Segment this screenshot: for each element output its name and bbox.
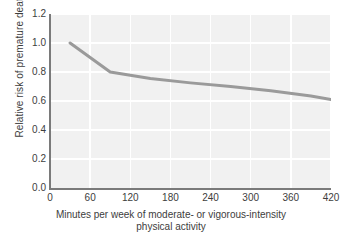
x-axis-tick-label: 0 xyxy=(30,192,70,203)
plot-area xyxy=(50,14,331,188)
y-axis-tick-label: 1.0 xyxy=(2,38,46,48)
x-axis-tick-label: 360 xyxy=(271,192,311,203)
y-axis-tick-label: 0.4 xyxy=(2,125,46,135)
x-axis-tick-label: 60 xyxy=(70,192,110,203)
x-axis-tick-labels: 060120180240300360420 xyxy=(0,192,341,206)
x-axis-tick-label: 300 xyxy=(231,192,271,203)
x-axis-line xyxy=(49,188,331,190)
data-line-series xyxy=(50,14,331,188)
x-axis-tick-label: 180 xyxy=(150,192,190,203)
x-axis-tick-label: 420 xyxy=(311,192,341,203)
x-axis-tick-label: 120 xyxy=(110,192,150,203)
y-axis-tick-label: 0.8 xyxy=(2,67,46,77)
chart-figure: Relative risk of premature death 0.00.20… xyxy=(0,0,341,240)
y-axis-tick-label: 1.2 xyxy=(2,9,46,19)
y-axis-line xyxy=(49,14,51,189)
x-axis-tick-label: 240 xyxy=(191,192,231,203)
x-axis-label-line1: Minutes per week of moderate- or vigorou… xyxy=(56,209,286,220)
x-axis-label: Minutes per week of moderate- or vigorou… xyxy=(12,209,330,233)
y-axis-tick-label: 0.6 xyxy=(2,96,46,106)
x-axis-label-line2: physical activity xyxy=(12,221,330,233)
y-axis-tick-label: 0.2 xyxy=(2,154,46,164)
